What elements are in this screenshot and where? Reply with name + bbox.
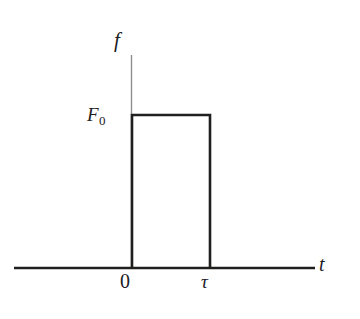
pulse-end-tick-label: τ — [201, 272, 208, 291]
pulse-curve — [132, 115, 210, 268]
x-axis-label: t — [319, 254, 325, 274]
amplitude-symbol: F — [87, 104, 99, 125]
rectangular-pulse-figure: f t F0 0 τ — [0, 0, 360, 319]
y-axis-label: f — [114, 30, 120, 51]
amplitude-tick-label: F0 — [87, 105, 106, 127]
plot-canvas — [0, 0, 360, 319]
amplitude-subscript: 0 — [99, 113, 106, 128]
origin-tick-label: 0 — [120, 271, 130, 291]
